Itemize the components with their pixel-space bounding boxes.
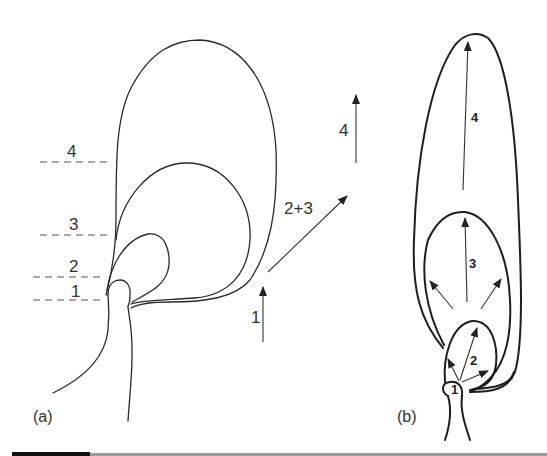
lobe-2 [107, 234, 169, 302]
panel-label-a: (a) [33, 408, 53, 425]
stalk-b-right [462, 396, 470, 440]
region-label-3: 3 [469, 256, 476, 271]
stalk-right [128, 306, 132, 421]
lobe-4 [106, 40, 276, 308]
bud-1 [108, 280, 130, 306]
region-label-1: 1 [451, 382, 458, 397]
arrow-b-2-right [462, 371, 488, 382]
diagram-canvas: 4 3 2 1 1 2+3 4 (a) [0, 0, 547, 456]
arrow-b-3-right [481, 279, 501, 309]
level-label-4: 4 [67, 142, 76, 161]
arrow-label-4: 4 [339, 121, 348, 140]
panel-label-b: (b) [397, 408, 417, 425]
arrow-b-2-left [448, 359, 459, 381]
panel-a: 4 3 2 1 1 2+3 4 (a) [33, 40, 356, 425]
arrow-b-3-left [430, 281, 453, 309]
arrow-label-2-3: 2+3 [284, 199, 313, 218]
level-label-2: 2 [69, 257, 78, 276]
level-label-3: 3 [69, 215, 78, 234]
bottom-rule-accent [12, 452, 90, 456]
arrow-b-3-up [465, 218, 467, 302]
level-label-1: 1 [71, 282, 80, 301]
panel-b: 4 3 2 1 (b) [397, 34, 521, 440]
region-label-4: 4 [471, 110, 479, 125]
region-label-2: 2 [470, 353, 477, 368]
arrow-label-1: 1 [251, 308, 260, 327]
stalk-b-left [445, 396, 450, 440]
stalk-left [53, 295, 109, 393]
arrow-b-4 [463, 42, 468, 190]
lobe-3 [116, 163, 250, 304]
